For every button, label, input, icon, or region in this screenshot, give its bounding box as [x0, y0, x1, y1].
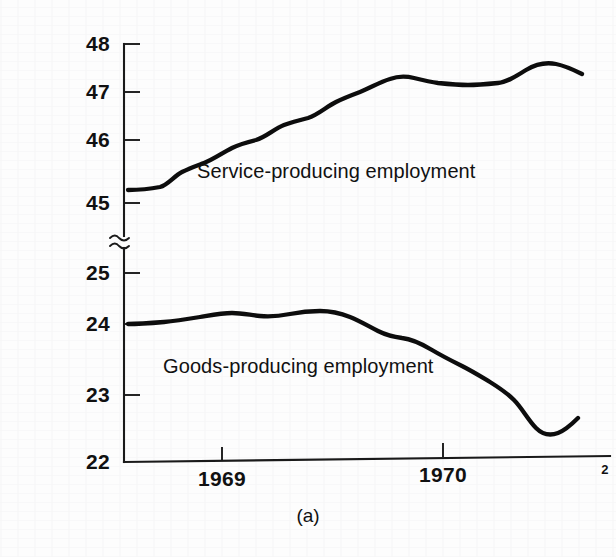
figure-panel: Millions 48 47 46 45 25 24 23 22 1969 19… [0, 0, 616, 557]
x-tick-label-1969: 1969 [198, 467, 246, 491]
x-tick-label-1970: 1970 [419, 463, 467, 487]
series-label-goods-producing: Goods-producing employment [163, 355, 434, 378]
y-tick-label-23: 23 [60, 383, 110, 407]
y-tick-label-48: 48 [60, 32, 110, 56]
series-label-service-producing: Service-producing employment [197, 160, 475, 183]
y-tick-label-25: 25 [60, 261, 110, 285]
y-tick-label-22: 22 [60, 450, 110, 474]
y-tick-label-45: 45 [60, 191, 110, 215]
axis-break-mark [110, 236, 129, 241]
figure-caption: (a) [0, 505, 616, 527]
axis-break-mark-second [110, 244, 129, 249]
x-axis-spine [124, 456, 610, 462]
y-tick-label-24: 24 [60, 312, 110, 336]
y-tick-label-47: 47 [60, 80, 110, 104]
x-tick-label-truncated: 2 [601, 462, 609, 477]
y-tick-label-46: 46 [60, 128, 110, 152]
